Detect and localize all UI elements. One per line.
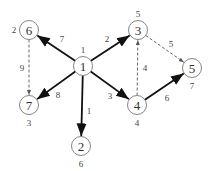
- edge-weight-label: 2: [105, 34, 110, 44]
- node-label: 7: [26, 98, 33, 113]
- node-label: 4: [134, 98, 141, 113]
- node-label: 6: [26, 23, 33, 38]
- edge-1-to-6: [37, 36, 75, 61]
- node-1: 11: [74, 45, 93, 76]
- edge-1-to-3: [91, 35, 130, 60]
- edge-3-to-5: [146, 35, 184, 62]
- edge-1-to-2: [81, 75, 83, 136]
- edge-weight-label: 8: [56, 90, 61, 100]
- node-value-label: 3: [27, 118, 32, 128]
- edge-weight-label: 1: [87, 106, 92, 116]
- node-4: 44: [128, 96, 147, 129]
- node-value-label: 7: [190, 81, 195, 91]
- node-label: 3: [135, 23, 142, 38]
- node-2: 26: [72, 137, 91, 170]
- nodes-group: 11263544576273: [12, 9, 202, 169]
- node-value-label: 1: [81, 45, 86, 55]
- node-value-label: 5: [136, 9, 141, 19]
- node-5: 57: [183, 59, 202, 92]
- node-7: 73: [20, 96, 39, 129]
- node-label: 1: [80, 59, 87, 74]
- edges-group: 728136945: [20, 34, 184, 136]
- edge-weight-label: 4: [143, 63, 148, 73]
- edge-4-to-3: [137, 40, 138, 96]
- node-6: 62: [12, 21, 39, 40]
- edge-weight-label: 5: [169, 39, 174, 49]
- edge-weight-label: 3: [108, 91, 113, 101]
- node-value-label: 4: [135, 118, 140, 128]
- node-label: 5: [189, 61, 196, 76]
- node-3: 35: [129, 9, 148, 40]
- graph-diagram: 728136945 11263544576273: [0, 0, 209, 171]
- node-value-label: 2: [12, 25, 17, 35]
- edge-weight-label: 7: [60, 34, 65, 44]
- edge-weight-label: 9: [20, 63, 25, 73]
- node-label: 2: [78, 139, 85, 154]
- edge-weight-label: 6: [165, 93, 170, 103]
- node-value-label: 6: [79, 159, 84, 169]
